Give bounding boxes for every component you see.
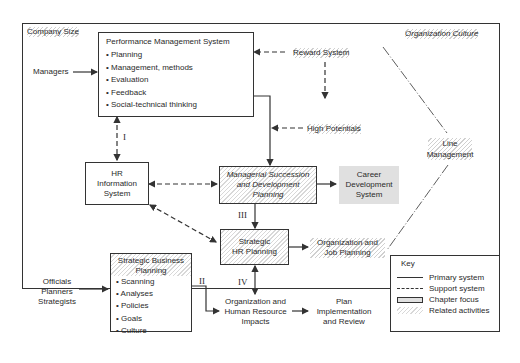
hatch-swatch-icon [397, 307, 423, 314]
list-item: Planning [106, 49, 253, 62]
focus-swatch-icon [397, 297, 423, 303]
sbp-title: Strategic Business Planning [111, 254, 191, 276]
key-item-focus: Chapter focus [397, 294, 499, 305]
box-line: Information [97, 179, 137, 189]
sbp-list: Scanning Analyses Policies Goals Culture [111, 276, 191, 337]
list-item: Evaluation [106, 74, 253, 87]
legend-key: Key Primary system Support system Chapte… [390, 255, 500, 332]
box-line: Impacts [241, 317, 269, 327]
line-management-line: Line [442, 138, 457, 149]
strategic-business-planning-box[interactable]: Strategic Business Planning Scanning Ana… [110, 253, 192, 332]
key-title: Key [401, 259, 499, 269]
key-label: Primary system [429, 273, 484, 283]
officials-label: Officials Planners Strategists [33, 277, 81, 307]
list-item: Goals [116, 313, 191, 325]
box-line: Implementation [317, 307, 372, 317]
high-potentials-label: High Potentials [307, 124, 361, 134]
box-line: Planning [111, 266, 191, 276]
key-label: Related activities [429, 306, 489, 316]
box-line: Organization and [225, 297, 286, 307]
box-line: HR Planning [232, 247, 277, 257]
officials-line: Strategists [38, 297, 76, 307]
roman-i: I [123, 132, 126, 142]
roman-iii: III [238, 210, 247, 220]
box-line: Development [345, 180, 392, 190]
box-line: System [356, 190, 383, 200]
performance-management-system-box[interactable]: Performance Management System Planning M… [98, 32, 254, 117]
key-label: Support system [429, 284, 485, 294]
hr-information-system-box[interactable]: HR Information System [85, 162, 149, 205]
officials-line: Officials [43, 277, 71, 287]
organization-culture-label: Organization Culture [405, 29, 478, 39]
line-management-line: Management [427, 149, 474, 160]
pms-title: Performance Management System [106, 37, 253, 47]
officials-line: Planners [41, 287, 73, 297]
line-management-label: Line Management [428, 138, 472, 160]
box-line: Job Planning [324, 248, 370, 258]
managers-label: Managers [33, 67, 69, 77]
managerial-succession-box[interactable]: Managerial Succession and Development Pl… [219, 166, 317, 204]
list-item: Management, methods [106, 62, 253, 75]
list-item: Policies [116, 300, 191, 312]
reward-system-label: Reward System [293, 48, 349, 58]
org-hr-impacts-label: Organization and Human Resource Impacts [218, 297, 293, 327]
box-line: and Development [237, 180, 300, 190]
pms-list: Planning Management, methods Evaluation … [106, 49, 253, 112]
list-item: Scanning [116, 276, 191, 288]
list-item: Social-technical thinking [106, 99, 253, 112]
solid-line-icon [397, 277, 423, 278]
strategic-hr-planning-box[interactable]: Strategic HR Planning [220, 229, 289, 265]
key-item-support: Support system [397, 283, 499, 294]
roman-ii: II [199, 276, 205, 286]
box-line: Managerial Succession [227, 170, 310, 180]
box-line: HR [111, 169, 123, 179]
list-item: Analyses [116, 288, 191, 300]
box-line: Strategic [239, 237, 271, 247]
key-item-related: Related activities [397, 305, 499, 316]
key-item-primary: Primary system [397, 272, 499, 283]
list-item: Culture [116, 325, 191, 337]
box-line: Career [357, 170, 381, 180]
organization-job-planning-label: Organization and Job Planning [310, 238, 385, 258]
dashed-line-icon [397, 288, 423, 289]
box-line: Planning [252, 190, 283, 200]
list-item: Feedback [106, 87, 253, 100]
box-line: Strategic Business [111, 256, 191, 266]
box-line: Organization and [317, 238, 378, 248]
box-line: Plan [336, 297, 352, 307]
roman-iv: IV [238, 277, 248, 287]
plan-implementation-label: Plan Implementation and Review [310, 297, 378, 327]
box-line: System [104, 189, 131, 199]
company-size-label: Company Size [27, 27, 79, 37]
box-line: and Review [323, 317, 365, 327]
box-line: Human Resource [224, 307, 286, 317]
career-development-system-box[interactable]: Career Development System [339, 166, 399, 204]
key-label: Chapter focus [429, 295, 479, 305]
